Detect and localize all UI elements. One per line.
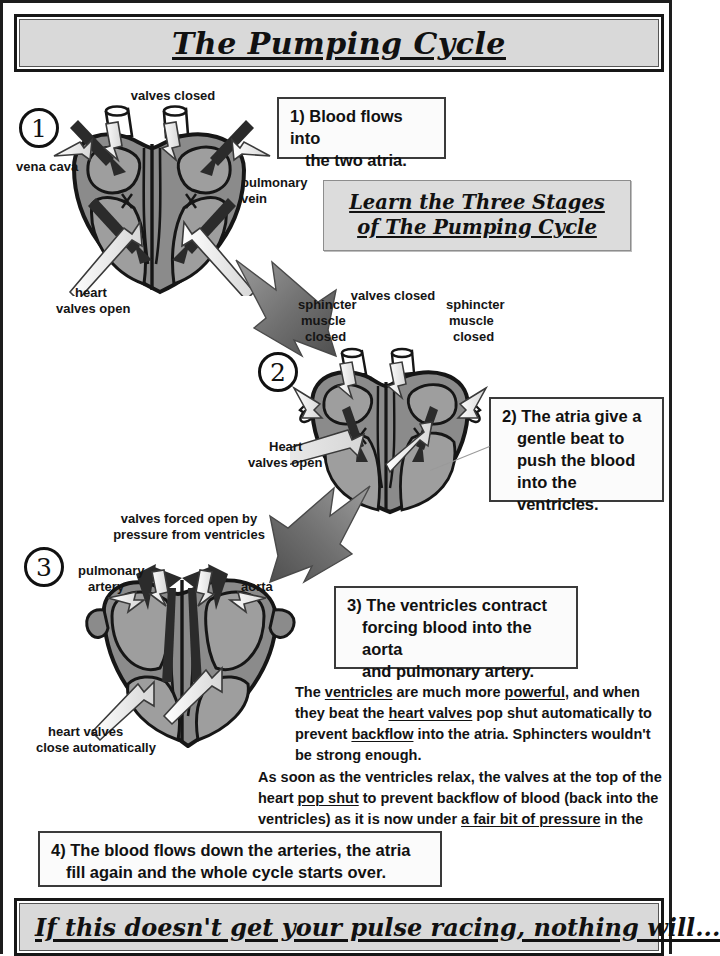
label-valves-forced-open-line1: valves forced open by: [94, 511, 284, 527]
label-heart-valves-open-line1-stage-1: heart: [75, 285, 107, 301]
learn-callout-line2: of The Pumping Cycle: [357, 216, 597, 241]
para2-underline-pressure: a fair bit of pressure: [461, 811, 600, 827]
statement-box-3: 3) The ventricles contract forcing blood…: [334, 586, 578, 669]
para1-text1: The: [295, 684, 325, 700]
statement-box-1: 1) Blood flows into the two atria.: [277, 97, 446, 159]
para1-underline-ventricles: ventricles: [325, 684, 393, 700]
para1-underline-heart-valves: heart valves: [388, 705, 472, 721]
statement-2-line4: into the ventricles.: [502, 472, 651, 516]
statement-1-number: 1): [290, 107, 305, 125]
label-sphincter-right-line3: closed: [453, 329, 494, 345]
learn-callout-line1: Learn the Three Stages: [349, 191, 605, 216]
label-valves-closed-stage-1: valves closed: [118, 88, 228, 104]
para1-underline-powerful: powerful: [505, 684, 565, 700]
label-heart-valves-close-line2: close automatically: [36, 740, 156, 756]
label-sphincter-right-line2: muscle: [449, 313, 494, 329]
statement-1-line1: Blood flows into: [290, 107, 403, 147]
statement-2-line1: The atria give a: [521, 407, 641, 425]
label-pulmonary-vein-line2: vein: [241, 191, 267, 207]
statement-3-line1: The ventricles contract: [366, 596, 547, 614]
page-title-banner: The Pumping Cycle: [14, 14, 664, 72]
label-valves-forced-open-line2: pressure from ventricles: [94, 527, 284, 543]
label-pulmonary-artery-line1: pulmonary: [78, 563, 144, 579]
statement-4-line1: The blood flows down the arteries, the a…: [70, 841, 410, 859]
statement-2-line3: push the blood: [502, 450, 651, 472]
page-title: The Pumping Cycle: [172, 26, 506, 61]
statement-3-line2: forcing blood into the aorta: [347, 617, 565, 661]
statement-4-line2: fill again and the whole cycle starts ov…: [51, 862, 429, 884]
para2-underline-pop-shut: pop shut: [298, 790, 359, 806]
para1-text2: are much more: [393, 684, 505, 700]
statement-3-line3: and pulmonary artery.: [347, 661, 565, 683]
para1-underline-backflow: backflow: [351, 726, 413, 742]
label-sphincter-left-line2: muscle: [301, 313, 346, 329]
label-sphincter-left-line3: closed: [305, 329, 346, 345]
label-pulmonary-vein-line1: pulmonary: [241, 175, 307, 191]
learn-three-stages-callout: Learn the Three Stages of The Pumping Cy…: [323, 180, 631, 251]
label-vena-cava: vena cava: [16, 159, 78, 175]
page-border-left: [0, 0, 3, 954]
statement-2-number: 2): [502, 407, 517, 425]
statement-4-number: 4): [51, 841, 66, 859]
label-sphincter-right-line1: sphincter: [446, 297, 505, 313]
page-border-right: [669, 0, 672, 954]
label-valves-closed-stage-2: valves closed: [345, 288, 441, 304]
label-aorta: aorta: [241, 579, 273, 595]
statement-box-2: 2) The atria give a gentle beat to push …: [489, 397, 664, 502]
label-pulmonary-artery-line2: artery: [88, 579, 124, 595]
statement-3-number: 3): [347, 596, 362, 614]
statement-1-line2: the two atria.: [290, 150, 433, 172]
page-footer-text: If this doesn't get your pulse racing, n…: [35, 913, 720, 942]
label-heart-valves-open-line1-stage-2: Heart: [269, 439, 302, 455]
paragraph-ventricles-power: The ventricles are much more powerful, a…: [295, 682, 667, 766]
stage-number-3: 3: [24, 547, 64, 587]
statement-box-4: 4) The blood flows down the arteries, th…: [38, 831, 442, 887]
page-border-top: [0, 0, 672, 3]
page-footer-banner: If this doesn't get your pulse racing, n…: [14, 898, 664, 956]
label-heart-valves-close-line1: heart valves: [48, 724, 123, 740]
label-heart-valves-open-line2-stage-1: valves open: [56, 301, 130, 317]
statement-2-line2: gentle beat to: [502, 428, 651, 450]
label-heart-valves-open-line2-stage-2: valves open: [248, 455, 322, 471]
